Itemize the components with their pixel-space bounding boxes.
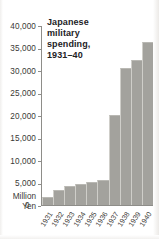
y-axis-label-25000: 25,000	[10, 89, 36, 98]
y-axis-tick-25000	[38, 94, 41, 95]
y-axis-label-zero: 0	[25, 201, 30, 210]
y-axis-label-5000: 5,000	[15, 179, 36, 188]
bar-slot	[131, 26, 142, 205]
bar-slot	[75, 26, 86, 205]
bar-1939	[131, 60, 142, 205]
y-axis-unit-label: Million Yen	[0, 192, 36, 211]
y-axis-tick-0	[38, 206, 41, 207]
x-axis-slot: 1940	[142, 207, 153, 239]
bar-1937	[109, 115, 120, 205]
y-axis-unit-line-2: Yen	[0, 202, 36, 212]
bar-slot	[53, 26, 64, 205]
bar-slot	[64, 26, 75, 205]
y-axis-tick-5000	[38, 184, 41, 185]
bar-slot	[142, 26, 153, 205]
bar-slot	[86, 26, 97, 205]
bar-1940	[142, 42, 153, 205]
y-axis-label-20000: 20,000	[10, 112, 36, 121]
bar-series	[42, 26, 153, 205]
chart-figure: 40,00035,00030,00025,00020,00015,00010,0…	[0, 0, 159, 239]
bar-slot	[97, 26, 108, 205]
y-axis-tick-40000	[38, 26, 41, 27]
y-axis-label-15000: 15,000	[10, 134, 36, 143]
bar-slot	[120, 26, 131, 205]
y-axis-labels: 40,00035,00030,00025,00020,00015,00010,0…	[0, 26, 36, 206]
y-axis-unit-line-1: Million	[13, 192, 36, 201]
bar-1938	[120, 68, 131, 205]
bar-slot	[42, 26, 53, 205]
bar-slot	[109, 26, 120, 205]
y-axis-tick-30000	[38, 71, 41, 72]
y-axis-label-40000: 40,000	[10, 22, 36, 31]
x-axis-labels: 1931193219331934193519361937193819391940	[42, 207, 153, 239]
y-axis-label-35000: 35,000	[10, 44, 36, 53]
y-axis-tick-15000	[38, 139, 41, 140]
y-axis-tick-10000	[38, 161, 41, 162]
plot-area	[41, 26, 153, 206]
y-axis-label-30000: 30,000	[10, 67, 36, 76]
y-axis-tick-20000	[38, 116, 41, 117]
y-axis-tick-35000	[38, 49, 41, 50]
y-axis-label-10000: 10,000	[10, 157, 36, 166]
